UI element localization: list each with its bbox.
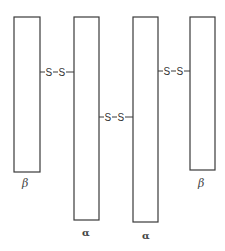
label-beta-left: β — [21, 177, 28, 190]
sulfur-atom: S — [46, 67, 53, 78]
disulfide-bond-1: S S — [40, 67, 74, 78]
chain-beta-left — [14, 17, 40, 172]
chain-beta-right — [190, 17, 215, 170]
sulfur-atom: S — [164, 66, 171, 77]
sulfur-atom: S — [177, 66, 184, 77]
chain-alpha-right — [133, 17, 158, 222]
sulfur-atom: S — [118, 112, 125, 123]
disulfide-bond-3: S S — [158, 66, 190, 77]
disulfide-diagram: S S S S S S β α α β — [0, 0, 225, 251]
chain-alpha-left — [74, 17, 99, 220]
label-beta-right: β — [197, 177, 204, 190]
sulfur-atom: S — [59, 67, 66, 78]
label-alpha-left: α — [82, 227, 90, 238]
label-alpha-right: α — [142, 230, 150, 241]
sulfur-atom: S — [105, 112, 112, 123]
disulfide-bond-2: S S — [99, 112, 133, 123]
